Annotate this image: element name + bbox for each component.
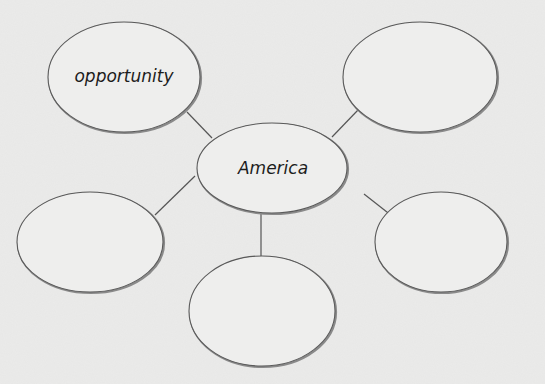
node-top-right (343, 22, 497, 132)
node-label-top-left: opportunity (74, 66, 174, 86)
web-diagram: opportunity America (0, 0, 545, 384)
node-bottom-right (375, 192, 507, 292)
node-bottom-center (189, 256, 335, 366)
node-label-center: America (237, 158, 308, 178)
node-bottom-left (17, 192, 163, 292)
